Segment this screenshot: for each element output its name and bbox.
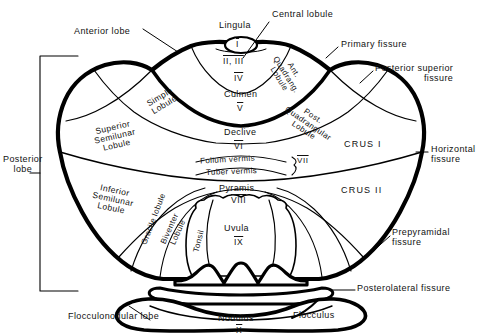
label-posterior-lobe: Posterior lobe — [3, 155, 43, 174]
numeral-culmen-lower: V — [237, 104, 243, 113]
numeral-lingula: I — [236, 40, 239, 49]
label-central-lobule: Central lobule — [272, 10, 333, 20]
label-horizontal-fissure: Horizontal fissure — [431, 145, 476, 164]
label-flocculus: Flocculus — [293, 311, 335, 321]
label-posterior-superior-fissure: Posterior superior fissure — [375, 64, 453, 83]
label-primary-fissure: Primary fissure — [341, 40, 407, 50]
label-nodulus: Nodulus — [218, 314, 254, 324]
cerebellum-diagram: Anterior lobe Posterior lobe Flocculonod… — [0, 0, 483, 334]
label-crus-i: CRUS I — [344, 140, 382, 150]
label-culmen: Culmen — [224, 90, 257, 100]
label-lingula: Lingula — [219, 21, 251, 31]
numeral-pyramis: VIII — [231, 196, 246, 205]
numeral-culmen-upper: IV — [234, 74, 243, 83]
label-uvula: Uvula — [224, 224, 249, 234]
numeral-central-lobule: II, III — [223, 57, 244, 66]
leader-anterior-lobe — [143, 29, 178, 52]
numeral-uvula: IX — [234, 238, 243, 247]
label-anterior-lobe: Anterior lobe — [74, 27, 130, 37]
numeral-declive: VI — [234, 142, 243, 151]
label-flocculonodular-lobe: Flocculonodular lobe — [68, 312, 159, 322]
label-prepyramidal-fissure: Prepyramidal fissure — [392, 228, 450, 247]
label-tuber-vermis: Tuber vermis — [206, 167, 257, 177]
label-crus-ii: CRUS II — [341, 186, 382, 196]
numeral-folium-tuber: VII — [297, 157, 309, 166]
label-prepyramidal-fissure-line2: fissure — [392, 238, 450, 248]
label-declive: Declive — [224, 128, 256, 138]
label-posterior-lobe-line2: lobe — [3, 165, 43, 175]
label-posterolateral-fissure: Posterolateral fissure — [357, 284, 450, 294]
label-horizontal-fissure-line2: fissure — [431, 155, 476, 165]
leader-primary-fissure — [326, 47, 338, 58]
numeral-nodulus: X — [236, 326, 242, 334]
label-pyramis: Pyramis — [219, 184, 254, 194]
label-posterior-superior-fissure-line2: fissure — [375, 74, 453, 84]
